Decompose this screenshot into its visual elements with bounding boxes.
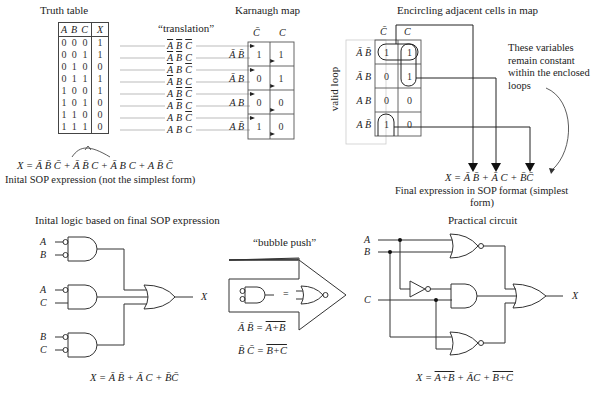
- final-sop-caption-2: form): [470, 197, 494, 208]
- kmap-row: Ā B̄11: [218, 42, 292, 66]
- kmap-row-label: A B: [218, 97, 248, 108]
- kmap-row-label: A B̄: [352, 119, 375, 130]
- minterm: ABC: [167, 112, 195, 124]
- var-a: A: [167, 52, 173, 63]
- encircle-col-c: C: [404, 26, 411, 37]
- kmap-row: A B00: [218, 91, 292, 115]
- kmap-cell: 1: [270, 73, 292, 84]
- var-c: C: [185, 64, 192, 75]
- var-c: C: [185, 100, 192, 111]
- var-b: B: [176, 100, 182, 111]
- initial-sop-expression: X = Ā B̄ C̄ + Ā B̄ C + Ā B C + A B̄ C̄: [17, 160, 173, 171]
- var-a: A: [167, 100, 173, 111]
- var-a: A: [167, 40, 173, 51]
- input-a2: A: [40, 284, 46, 295]
- output-x1: X: [201, 291, 207, 302]
- kmap-cell: 0: [248, 97, 270, 108]
- kmap-cell: 0: [398, 119, 421, 130]
- kmap-cell: 1: [375, 47, 398, 58]
- var-c: C: [185, 40, 192, 51]
- var-b: B: [176, 40, 182, 51]
- input-b1: B: [40, 249, 46, 260]
- initial-logic-title: Inital logic based on final SOP expressi…: [35, 214, 220, 226]
- var-b: B: [176, 124, 182, 135]
- bubble-eq2: B̄ C̄ = B+C: [238, 345, 287, 356]
- var-b: B: [176, 88, 182, 99]
- input-b3: B: [40, 331, 46, 342]
- minterm: ABC: [167, 64, 195, 76]
- kmap-row-label: Ā B̄: [218, 49, 248, 60]
- minterm: ABC: [167, 76, 195, 88]
- bubble-push-title: “bubble push”: [253, 236, 316, 248]
- kmap-row: A B̄10: [218, 115, 292, 139]
- translation-label: “translation”: [158, 22, 214, 34]
- translation-connectors: [120, 46, 165, 130]
- kmap-title: Karnaugh map: [235, 4, 300, 16]
- practical-input-a: A: [364, 234, 370, 245]
- input-a1: A: [40, 236, 46, 247]
- practical-input-b: B: [364, 246, 370, 257]
- kmap-cell: 1: [270, 49, 292, 60]
- down-arrows: [468, 163, 535, 172]
- practical-input-c: C: [364, 294, 371, 305]
- var-b: B: [176, 76, 182, 87]
- kmap-row-label: Ā B: [218, 73, 248, 84]
- practical-expression: X = A+B + ĀC + B+C: [416, 372, 513, 383]
- var-a: A: [167, 112, 173, 123]
- kmap-cell: 1: [248, 121, 270, 132]
- kmap-cell: 0: [398, 95, 421, 106]
- encircle-col-cbar: C̄: [380, 26, 387, 37]
- var-c: C: [185, 76, 192, 87]
- minterm: ABC: [167, 40, 195, 52]
- bubble-equals: =: [283, 288, 289, 299]
- kmap-col-cbar: C̄: [253, 27, 260, 38]
- practical-circuit: [378, 234, 563, 355]
- var-b: B: [176, 112, 182, 123]
- initial-logic-expression: X = Ā B̄ + Ā C + B̄C̄: [90, 372, 178, 383]
- var-c: C: [185, 112, 192, 123]
- valid-loop-label: valid loop: [328, 67, 340, 111]
- input-c2: C: [40, 297, 47, 308]
- final-sop-expression: X = Ā B̄ + Ā C + B̄C̄: [445, 172, 533, 183]
- kmap-row-label: Ā B̄: [352, 47, 375, 58]
- translation-terms: ABCABCABCABCABCABCABCABC: [167, 40, 195, 136]
- kmap-row-label: A B: [352, 95, 375, 106]
- var-b: B: [176, 52, 182, 63]
- kmap-cell: 0: [270, 121, 292, 132]
- var-c: C: [185, 124, 192, 135]
- kmap-cell: 1: [398, 47, 421, 58]
- minterm: ABC: [167, 124, 195, 136]
- var-a: A: [167, 76, 173, 87]
- var-a: A: [167, 64, 173, 75]
- kmap-cell: 0: [248, 73, 270, 84]
- var-c: C: [185, 52, 192, 63]
- kmap-cell: 0: [375, 95, 398, 106]
- minterm: ABC: [167, 52, 195, 64]
- kmap-cell: 1: [248, 49, 270, 60]
- practical-output-x: X: [572, 290, 578, 301]
- kmap-row: A B00: [352, 88, 421, 112]
- var-b: B: [176, 64, 182, 75]
- constant-variables-note: These variables remain constant within t…: [508, 42, 590, 92]
- kmap-col-c: C: [279, 27, 286, 38]
- kmap-cell: 1: [398, 71, 421, 82]
- var-a: A: [167, 124, 173, 135]
- kmap-row: Ā B01: [218, 66, 292, 90]
- kmap-row: Ā B̄11: [352, 40, 421, 64]
- initial-logic-circuit: [55, 237, 193, 357]
- var-c: C: [185, 88, 192, 99]
- kmap-row: Ā B01: [352, 64, 421, 88]
- practical-title: Practical circuit: [448, 214, 517, 226]
- kmap-row-label: Ā B: [352, 71, 375, 82]
- kmap-row: A B̄10: [352, 112, 421, 136]
- junction-dots: [388, 238, 438, 302]
- var-a: A: [167, 88, 173, 99]
- final-sop-caption-1: Final expression in SOP format (simplest: [395, 185, 568, 196]
- kmap-cell: 1: [375, 119, 398, 130]
- kmap-cell: 0: [375, 71, 398, 82]
- bubble-eq1: Ā B̄ = A+B: [238, 322, 286, 333]
- initial-sop-caption: Inital SOP expression (not the simplest …: [5, 174, 195, 185]
- input-c3: C: [40, 344, 47, 355]
- kmap-cell: 0: [270, 97, 292, 108]
- minterm: ABC: [167, 88, 195, 100]
